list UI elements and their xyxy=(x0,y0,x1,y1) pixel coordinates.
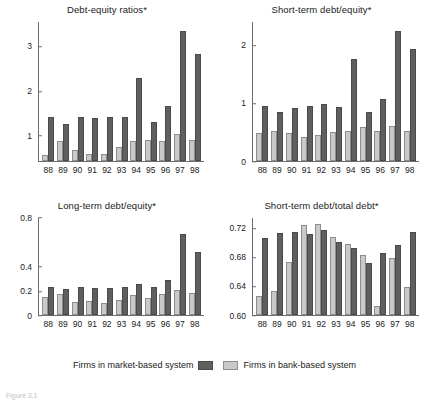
bar-market-based xyxy=(277,112,283,161)
bar-group xyxy=(173,218,188,315)
y-tick-label: 0 xyxy=(27,312,38,321)
bar-group xyxy=(143,22,158,161)
y-tick-label: 1 xyxy=(241,99,252,108)
bar-group xyxy=(114,218,129,315)
bar-market-based xyxy=(410,49,416,161)
x-tick-labels: 8889909192939495969798 xyxy=(39,316,204,329)
panel-debt-equity-ratios: Debt-equity ratios* 123 8889909192939495… xyxy=(0,0,214,196)
plot-area: 00.20.40.8 8889909192939495969798 xyxy=(38,218,204,316)
bar-group xyxy=(284,218,299,315)
x-tick-label: 91 xyxy=(299,320,314,329)
bar-market-based xyxy=(151,287,157,315)
y-tick-label: 0.72 xyxy=(229,225,252,234)
x-tick-label: 96 xyxy=(158,166,173,175)
x-tick-label: 89 xyxy=(56,166,71,175)
bar-market-based xyxy=(395,245,401,315)
x-tick-label: 93 xyxy=(329,320,344,329)
x-tick-label: 91 xyxy=(85,166,100,175)
bar-group xyxy=(343,218,358,315)
x-tick-label: 98 xyxy=(402,166,417,175)
bar-market-based xyxy=(366,112,372,161)
bar-market-based xyxy=(78,117,84,161)
y-tick-label: 0.4 xyxy=(20,263,38,272)
x-tick-label: 88 xyxy=(255,320,270,329)
y-tick-label: 0.2 xyxy=(20,287,38,296)
x-tick-label: 98 xyxy=(187,166,202,175)
panel-short-term-debt-total-debt: Short-term debt/total debt* 0.600.640.68… xyxy=(214,196,429,352)
legend-label-market-based: Firms in market-based system xyxy=(73,360,194,370)
x-tick-label: 95 xyxy=(358,166,373,175)
x-tick-labels: 8889909192939495969798 xyxy=(39,162,204,175)
bar-group xyxy=(402,22,417,161)
bar-groups xyxy=(39,218,204,315)
x-tick-label: 93 xyxy=(329,166,344,175)
bar-market-based xyxy=(395,31,401,161)
panel-short-term-debt-equity: Short-term debt/equity* 012 888990919293… xyxy=(214,0,429,196)
x-tick-label: 96 xyxy=(158,320,173,329)
bar-group xyxy=(402,218,417,315)
y-tick-label: 0.8 xyxy=(20,214,38,223)
x-tick-label: 97 xyxy=(173,166,188,175)
chart-grid: Debt-equity ratios* 123 8889909192939495… xyxy=(0,0,429,352)
x-tick-label: 92 xyxy=(314,166,329,175)
bar-market-based xyxy=(63,124,69,161)
panel-title: Short-term debt/equity* xyxy=(214,4,429,15)
figure-caption: Figure 3.1 xyxy=(6,392,38,399)
bar-market-based xyxy=(63,289,69,315)
bar-group xyxy=(388,22,403,161)
x-tick-label: 88 xyxy=(41,320,56,329)
x-tick-labels: 8889909192939495969798 xyxy=(253,162,419,175)
figure-container: Debt-equity ratios* 123 8889909192939495… xyxy=(0,0,429,405)
x-tick-label: 96 xyxy=(373,166,388,175)
x-tick-label: 91 xyxy=(85,320,100,329)
bar-group xyxy=(158,22,173,161)
x-tick-label: 89 xyxy=(270,166,285,175)
bar-group xyxy=(270,22,285,161)
bar-group xyxy=(329,218,344,315)
x-tick-label: 97 xyxy=(388,166,403,175)
legend-label-bank-based: Firms in bank-based system xyxy=(243,360,356,370)
x-tick-labels: 8889909192939495969798 xyxy=(253,316,419,329)
bar-market-based xyxy=(307,234,313,315)
bar-group xyxy=(255,22,270,161)
x-tick-label: 90 xyxy=(284,320,299,329)
bar-market-based xyxy=(292,108,298,161)
panel-long-term-debt-equity: Long-term debt/equity* 00.20.40.8 888990… xyxy=(0,196,214,352)
bar-market-based xyxy=(307,106,313,161)
bar-market-based xyxy=(366,263,372,315)
bar-market-based xyxy=(92,288,98,315)
plot-area: 123 8889909192939495969798 xyxy=(38,22,204,162)
plot-area: 0.600.640.680.72 8889909192939495969798 xyxy=(252,218,419,316)
legend-swatch-bank-based xyxy=(223,361,238,370)
x-tick-label: 95 xyxy=(358,320,373,329)
bar-group xyxy=(343,22,358,161)
x-tick-label: 95 xyxy=(143,320,158,329)
y-tick-label: 1 xyxy=(27,132,38,141)
bar-market-based xyxy=(336,107,342,161)
bar-market-based xyxy=(262,238,268,315)
bar-market-based xyxy=(122,287,128,315)
x-tick-label: 94 xyxy=(129,166,144,175)
y-tick-label: 0.68 xyxy=(229,254,252,263)
bar-market-based xyxy=(292,232,298,315)
x-tick-label: 96 xyxy=(373,320,388,329)
bar-group xyxy=(255,218,270,315)
bar-group xyxy=(173,22,188,161)
bar-market-based xyxy=(165,106,171,161)
bar-group xyxy=(314,22,329,161)
bar-market-based xyxy=(78,287,84,315)
bar-group xyxy=(85,22,100,161)
y-tick-label: 3 xyxy=(27,42,38,51)
bar-market-based xyxy=(195,54,201,161)
legend-swatch-market-based xyxy=(198,361,213,370)
x-tick-label: 92 xyxy=(314,320,329,329)
x-tick-label: 88 xyxy=(255,166,270,175)
x-tick-label: 94 xyxy=(129,320,144,329)
bar-group xyxy=(299,22,314,161)
bar-market-based xyxy=(122,117,128,161)
bar-group xyxy=(129,22,144,161)
bar-market-based xyxy=(262,106,268,161)
plot-area: 012 8889909192939495969798 xyxy=(252,22,419,162)
legend-entry-bank-based: Firms in bank-based system xyxy=(223,360,356,370)
bar-market-based xyxy=(107,288,113,315)
